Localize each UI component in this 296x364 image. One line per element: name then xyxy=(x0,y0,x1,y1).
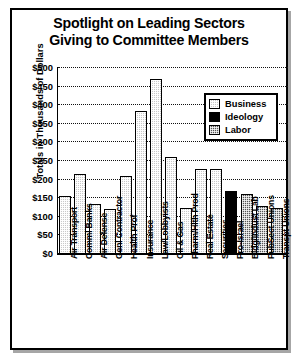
chart-frame: Spotlight on Leading Sectors Giving to C… xyxy=(10,8,288,350)
y-axis-tick-label: $250 xyxy=(32,155,53,166)
chart-title-line-1: Spotlight on Leading Sectors xyxy=(12,15,286,32)
legend-item-label: Business xyxy=(225,99,266,109)
chart-title: Spotlight on Leading Sectors Giving to C… xyxy=(12,15,286,48)
y-axis-tick-label: $200 xyxy=(32,173,53,184)
legend-item-label: Ideology xyxy=(225,112,263,122)
y-axis-tick-label: $400 xyxy=(32,99,53,110)
legend-item-ideology: Ideology xyxy=(209,110,273,123)
x-axis-tick-label: Insurance xyxy=(145,220,155,259)
x-axis-tick-label: Genl Contractor xyxy=(114,196,124,259)
x-axis-tick-label: Securities xyxy=(220,219,230,259)
x-axis-tick-label: Pharm/Hlth Prod xyxy=(190,193,200,259)
gridline xyxy=(58,141,288,142)
y-axis-tick-label: $350 xyxy=(32,117,53,128)
legend-swatch-icon xyxy=(209,112,220,122)
x-axis-tick-label: PubSect Unions xyxy=(266,195,276,259)
x-axis-tick-label: Real Estate xyxy=(205,214,215,259)
y-axis-tick-label: $300 xyxy=(32,136,53,147)
x-axis-tick-label: Air Defense xyxy=(99,213,109,259)
chart-legend: BusinessIdeologyLabor xyxy=(204,93,278,141)
y-axis-tick-label: $50 xyxy=(37,229,53,240)
legend-swatch-icon xyxy=(209,99,220,109)
legend-swatch-icon xyxy=(209,125,220,135)
x-axis-tick-label: Transpt Unions xyxy=(281,199,291,259)
y-axis-line xyxy=(57,67,58,255)
chart-title-line-2: Giving to Committee Members xyxy=(12,32,286,49)
x-axis-tick-label: Law/Lobbyists xyxy=(160,201,170,259)
x-axis-tick-label: Air Transport xyxy=(69,207,79,259)
x-axis-tick-label: Health Prof xyxy=(129,215,139,259)
x-axis-tick-label: Comml Banks xyxy=(84,203,94,259)
x-axis-tick-label: Pro-Israel xyxy=(235,221,245,259)
y-axis-tick-label: $100 xyxy=(32,210,53,221)
gridline xyxy=(58,67,288,68)
legend-item-label: Labor xyxy=(225,125,251,135)
y-axis-tick-label: $500 xyxy=(32,62,53,73)
y-axis-tick-label: $0 xyxy=(43,248,53,259)
x-axis-tick-label: Bldg/Indust Lab xyxy=(250,196,260,259)
y-axis-tick-label: $450 xyxy=(32,80,53,91)
legend-item-labor: Labor xyxy=(209,123,273,136)
gridline xyxy=(58,86,288,87)
y-axis-tick-label: $150 xyxy=(32,192,53,203)
x-axis-tick-label: Oil & Gas xyxy=(175,222,185,259)
legend-item-business: Business xyxy=(209,97,273,110)
y-axis-title: Totals in Thousands of Dollars xyxy=(35,27,45,195)
